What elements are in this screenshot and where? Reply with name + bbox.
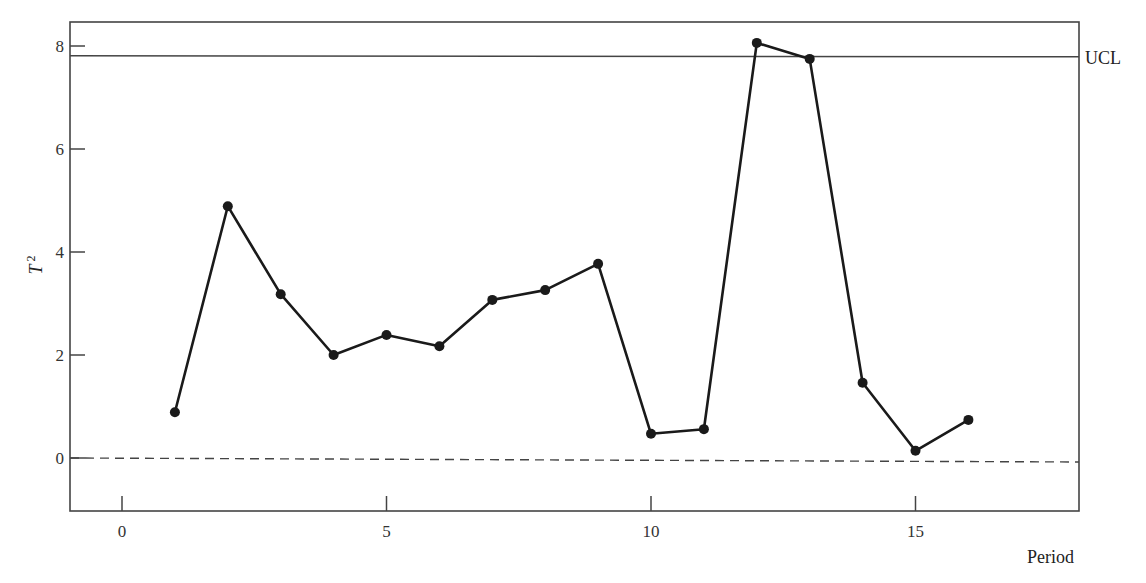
data-point (487, 295, 497, 305)
data-point (170, 407, 180, 417)
x-tick-label: 10 (643, 522, 660, 541)
x-tick-label: 0 (118, 522, 127, 541)
data-point (276, 289, 286, 299)
series-line (175, 43, 969, 451)
UCL-line (70, 56, 1079, 57)
t2-control-chart: 02468 051015 UCL Period T2 (0, 0, 1146, 583)
data-point (911, 446, 921, 456)
y-axis-title-main: T (26, 263, 46, 275)
data-point (382, 330, 392, 340)
x-axis-title: Period (1027, 547, 1074, 567)
x-tick-label: 5 (382, 522, 391, 541)
data-point (593, 259, 603, 269)
y-axis-title-sup: 2 (24, 255, 38, 261)
plot-frame (70, 22, 1079, 511)
data-point (434, 341, 444, 351)
y-axis-title: T2 (24, 255, 46, 274)
y-tick-label: 0 (56, 449, 65, 468)
svg-text:T2: T2 (24, 255, 46, 274)
zero-line (70, 458, 1079, 462)
y-tick-label: 2 (56, 346, 65, 365)
y-tick-label: 4 (56, 243, 65, 262)
data-point (646, 429, 656, 439)
ucl-label: UCL (1085, 48, 1121, 68)
data-point (223, 201, 233, 211)
data-point (858, 378, 868, 388)
data-point (752, 38, 762, 48)
reference-lines (70, 56, 1079, 462)
data-point (699, 424, 709, 434)
data-point (805, 54, 815, 64)
y-tick-label: 8 (56, 37, 65, 56)
x-axis: 051015 (118, 496, 924, 541)
data-point (540, 285, 550, 295)
y-tick-label: 6 (56, 140, 65, 159)
data-series (170, 38, 974, 456)
data-point (329, 350, 339, 360)
x-tick-label: 15 (907, 522, 924, 541)
data-point (963, 415, 973, 425)
